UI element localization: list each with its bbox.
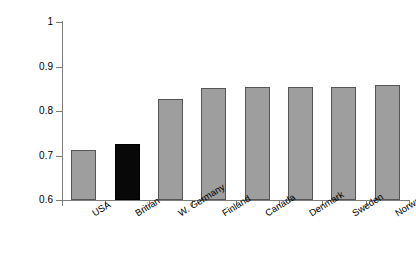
y-axis-tick-label: 0.7 bbox=[13, 151, 53, 161]
x-axis-label: USA bbox=[90, 209, 96, 218]
bar bbox=[115, 144, 140, 201]
bar bbox=[375, 85, 400, 200]
y-axis-tick-label: 0.8 bbox=[13, 106, 53, 116]
x-axis-label: Britian bbox=[133, 209, 139, 218]
bar bbox=[71, 150, 96, 200]
x-axis-tick bbox=[62, 200, 63, 206]
x-axis-label: Sweden bbox=[350, 209, 356, 218]
x-axis-label: Norway bbox=[393, 209, 399, 218]
y-axis-tick-label: 0.6 bbox=[13, 195, 53, 205]
y-axis-tick-label: 0.9 bbox=[13, 62, 53, 72]
bar-chart: Relative social mobility 10.90.80.70.6 U… bbox=[0, 0, 416, 263]
bar bbox=[288, 87, 313, 200]
bar bbox=[158, 99, 183, 200]
x-axis-label: Finland bbox=[220, 209, 226, 218]
x-axis-label: Denmark bbox=[307, 209, 313, 218]
x-axis-label: Canada bbox=[263, 209, 269, 218]
plot-area bbox=[62, 22, 407, 200]
bar bbox=[245, 87, 270, 200]
bar bbox=[331, 87, 356, 200]
x-axis-label: W. Germany bbox=[176, 209, 182, 218]
y-axis-tick-label: 1 bbox=[13, 17, 53, 27]
